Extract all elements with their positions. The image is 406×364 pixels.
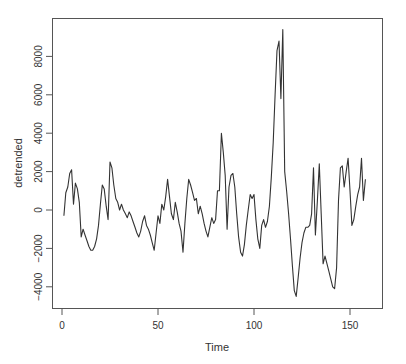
x-tick-label: 100 (246, 320, 263, 331)
x-axis: 050100150 (59, 309, 359, 332)
y-tick-label: 0 (33, 207, 44, 213)
y-axis: −4000−200002000400060008000 (33, 45, 53, 301)
y-tick-label: 6000 (33, 83, 44, 106)
y-axis-label: detrended (12, 138, 24, 188)
y-tick-label: 2000 (33, 160, 44, 183)
x-tick-label: 50 (152, 320, 164, 331)
series-line (64, 30, 366, 297)
y-tick-label: 4000 (33, 122, 44, 145)
y-tick-label: −2000 (33, 234, 44, 263)
plot-frame (53, 19, 383, 309)
x-tick-label: 150 (342, 320, 359, 331)
y-tick-label: −4000 (33, 272, 44, 301)
y-tick-label: 8000 (33, 45, 44, 68)
x-tick-label: 0 (59, 320, 65, 331)
chart-container: −4000−200002000400060008000 050100150 Ti… (0, 0, 406, 364)
x-axis-label: Time (205, 341, 229, 353)
